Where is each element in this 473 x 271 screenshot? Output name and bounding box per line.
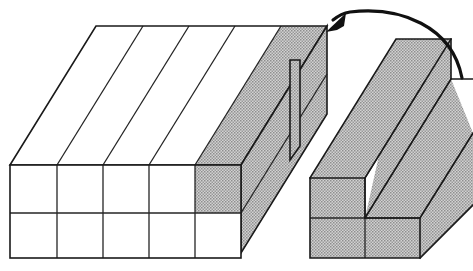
sliver-face bbox=[290, 60, 300, 160]
figure-root: Rectangular block with removable L-shape… bbox=[0, 0, 473, 271]
main-block bbox=[10, 26, 327, 258]
detached-piece-sliver bbox=[290, 60, 300, 160]
front-cell-r1c5-shaded bbox=[195, 165, 241, 213]
main-block-front-face bbox=[10, 165, 241, 258]
l-step-face bbox=[396, 39, 451, 79]
detached-l-piece bbox=[310, 39, 473, 258]
move-arrow-head-icon bbox=[326, 13, 346, 32]
block-diagram bbox=[0, 0, 473, 271]
